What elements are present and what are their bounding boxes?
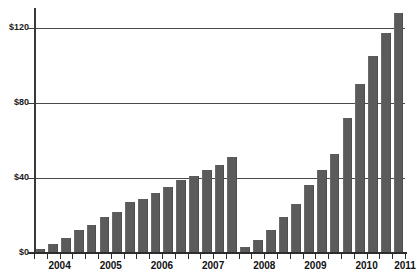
- x-axis-tick-mark: [111, 254, 112, 259]
- x-axis-tick-mark: [136, 254, 137, 259]
- bar: [266, 230, 276, 253]
- x-axis-tick-mark: [188, 254, 189, 259]
- x-axis-labels: 20042005200620072008200920102011: [0, 260, 407, 276]
- x-axis-year-label: 2007: [202, 260, 224, 272]
- bar: [279, 217, 289, 253]
- y-axis-line: [34, 8, 36, 254]
- bar: [355, 84, 365, 253]
- bar: [381, 33, 391, 253]
- x-axis-year-label: 2006: [151, 260, 173, 272]
- y-axis-tick-label: $120: [9, 23, 29, 32]
- x-axis-tick-mark: [277, 254, 278, 259]
- y-axis-tick-label: $80: [14, 98, 29, 107]
- x-axis-tick-mark: [367, 254, 368, 259]
- bar: [368, 56, 378, 253]
- y-axis-tick-label: $40: [14, 173, 29, 182]
- x-axis-tick-mark: [98, 254, 99, 259]
- bar: [291, 204, 301, 253]
- x-axis-tick-mark: [226, 254, 227, 259]
- bar: [176, 180, 186, 253]
- x-axis-tick-mark: [60, 254, 61, 259]
- bar: [138, 199, 148, 253]
- x-axis-tick-mark: [47, 254, 48, 259]
- bar: [394, 13, 404, 253]
- x-axis-tick-mark: [290, 254, 291, 259]
- x-axis-tick-mark: [85, 254, 86, 259]
- y-axis-labels: $0$40$80$120: [0, 0, 32, 277]
- x-axis-tick-mark: [200, 254, 201, 259]
- bar: [343, 118, 353, 253]
- x-axis-tick-mark: [251, 254, 252, 259]
- x-axis-tick-mark: [124, 254, 125, 259]
- x-axis-tick-mark: [354, 254, 355, 259]
- x-axis-tick-mark: [239, 254, 240, 259]
- bar-series: [34, 9, 405, 253]
- x-axis-tick-mark: [34, 254, 35, 259]
- bar: [317, 170, 327, 253]
- x-axis-tick-mark: [315, 254, 316, 259]
- bar: [112, 212, 122, 253]
- x-axis-year-label: 2004: [48, 260, 70, 272]
- bar: [61, 238, 71, 253]
- bar: [202, 170, 212, 253]
- x-axis-tick-mark: [303, 254, 304, 259]
- x-axis-tick-mark: [379, 254, 380, 259]
- x-axis-year-label: 2008: [253, 260, 275, 272]
- x-axis-tick-mark: [72, 254, 73, 259]
- x-axis-tick-mark: [175, 254, 176, 259]
- x-axis-tick-mark: [162, 254, 163, 259]
- bar: [87, 225, 97, 253]
- bar: [330, 154, 340, 253]
- x-axis-tick-mark: [341, 254, 342, 259]
- x-axis-year-label: 2005: [100, 260, 122, 272]
- x-axis-tick-mark: [264, 254, 265, 259]
- bar: [125, 202, 135, 253]
- x-axis-tick-mark: [149, 254, 150, 259]
- bar: [74, 230, 84, 253]
- bar: [189, 176, 199, 253]
- bar: [227, 157, 237, 253]
- x-axis-tick-mark: [328, 254, 329, 259]
- x-axis-year-label: 2010: [355, 260, 377, 272]
- bar: [304, 185, 314, 253]
- chart-title: [0, 0, 407, 1]
- bar: [100, 217, 110, 253]
- plot-area: [34, 9, 405, 253]
- x-axis-year-label: 2009: [304, 260, 326, 272]
- x-axis-year-label: 2011: [394, 260, 416, 272]
- bar: [151, 193, 161, 253]
- bar: [215, 165, 225, 253]
- bar: [163, 187, 173, 253]
- x-axis-tick-mark: [213, 254, 214, 259]
- x-axis-tick-mark: [405, 254, 406, 259]
- x-axis-tick-mark: [392, 254, 393, 259]
